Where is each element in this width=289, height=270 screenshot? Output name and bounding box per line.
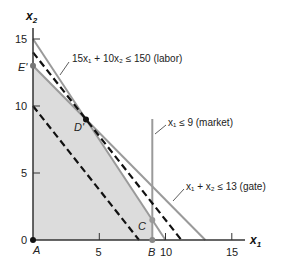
market-leader — [155, 125, 166, 134]
point-A — [30, 237, 36, 243]
y-tick-label-0: 0 — [21, 234, 27, 246]
y-axis-label: x2 — [25, 9, 38, 25]
y-tick-label-15: 15 — [15, 33, 27, 45]
point-label-D: D' — [74, 121, 85, 133]
labor-leader — [60, 62, 69, 75]
point-C — [149, 217, 155, 223]
point-label-A: A — [32, 244, 40, 256]
linear-programming-chart: 0 5 10 15 5 10 15 x2 x1 A B C D' E' 15x₁… — [0, 0, 289, 270]
gate-leader — [173, 189, 184, 201]
y-tick-label-5: 5 — [21, 167, 27, 179]
y-tick-label-10: 10 — [15, 100, 27, 112]
x-axis-label: x1 — [249, 233, 262, 249]
x-tick-label-15: 15 — [226, 246, 238, 258]
point-label-E: E' — [18, 61, 28, 73]
point-label-C: C — [138, 220, 146, 232]
feasible-region — [33, 66, 152, 240]
market-constraint-label: x₁ ≤ 9 (market) — [168, 117, 233, 128]
x-tick-label-5: 5 — [96, 246, 102, 258]
gate-constraint-label: x₁ + x₂ ≤ 13 (gate) — [186, 181, 266, 192]
point-B — [149, 237, 155, 243]
point-E — [30, 63, 36, 69]
labor-constraint-label: 15x₁ + 10x₂ ≤ 150 (labor) — [72, 53, 182, 64]
x-tick-label-10: 10 — [160, 246, 172, 258]
point-label-B: B — [148, 246, 155, 258]
